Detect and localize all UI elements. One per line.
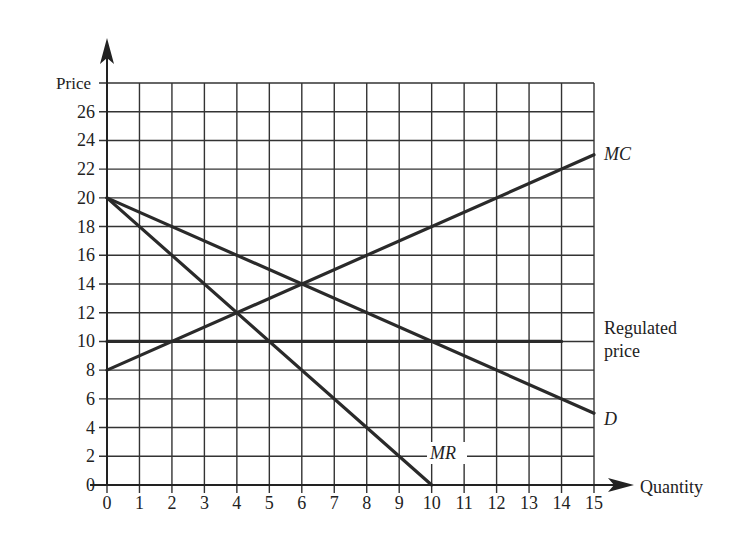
y-tick-label: 6 [86,389,95,409]
x-tick-label: 9 [395,493,404,513]
y-tick-label: 4 [86,418,95,438]
regulated-price-label-line2: price [604,341,640,361]
grid [99,83,594,493]
y-tick-label: 14 [77,274,95,294]
x-tick-label: 7 [330,493,339,513]
tick-labels: 0123456789101112131415024681012141618202… [77,102,603,513]
series-d [107,198,594,413]
x-tick-label: 12 [488,493,506,513]
y-axis-title: Price [56,74,91,93]
series-lines [107,155,594,485]
y-tick-label: 2 [86,446,95,466]
y-tick-label: 12 [77,303,95,323]
y-tick-label: 20 [77,188,95,208]
x-tick-label: 13 [520,493,538,513]
regulated-price-label-line1: Regulated [604,318,677,338]
d-label: D [603,409,617,429]
x-axis-title: Quantity [640,477,703,497]
y-tick-label: 18 [77,217,95,237]
y-tick-label: 26 [77,102,95,122]
x-tick-label: 15 [585,493,603,513]
x-tick-label: 0 [103,493,112,513]
x-tick-label: 1 [135,493,144,513]
x-tick-label: 4 [232,493,241,513]
x-tick-label: 3 [200,493,209,513]
x-tick-label: 10 [423,493,441,513]
x-tick-label: 11 [455,493,472,513]
x-tick-label: 14 [553,493,571,513]
x-tick-label: 8 [362,493,371,513]
x-tick-label: 6 [297,493,306,513]
y-tick-label: 10 [77,331,95,351]
mc-label: MC [603,144,632,164]
y-tick-label: 8 [86,360,95,380]
chart: 0123456789101112131415024681012141618202… [0,0,755,541]
x-tick-label: 2 [167,493,176,513]
mr-label: MR [429,443,456,463]
x-tick-label: 5 [265,493,274,513]
y-tick-label: 24 [77,130,95,150]
y-tick-label: 22 [77,159,95,179]
y-tick-label: 16 [77,245,95,265]
